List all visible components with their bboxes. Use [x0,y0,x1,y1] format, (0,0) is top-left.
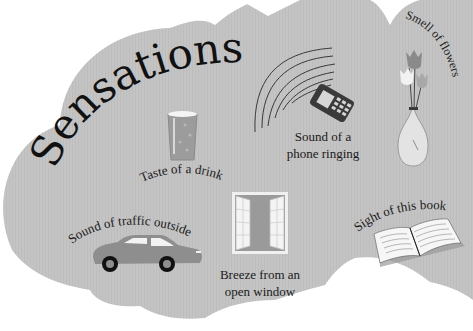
sensations-illustration: Sensations Taste of a drink [0,0,473,331]
book-label: Sight of this book [351,197,448,234]
book-label-curve: Sight of this book [0,0,473,331]
svg-text:Sight of this book: Sight of this book [351,197,448,234]
